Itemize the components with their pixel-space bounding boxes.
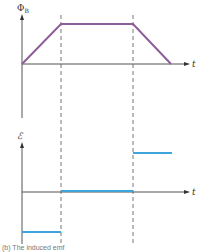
top-x-arrow-icon <box>184 62 190 66</box>
figure-caption: (b) The induced emf <box>2 244 65 251</box>
top-x-label: t <box>192 59 196 69</box>
bottom-x-arrow-icon <box>184 190 190 194</box>
bottom-graph: ℰ t <box>17 131 196 244</box>
top-y-arrow-icon <box>20 14 24 20</box>
bottom-y-label: ℰ <box>17 131 24 141</box>
bottom-y-arrow-icon <box>20 142 24 148</box>
bottom-x-label: t <box>192 187 196 197</box>
flux-emf-diagram: ΦB t ℰ t <box>0 0 204 252</box>
top-y-label: ΦB <box>17 3 29 14</box>
flux-curve <box>22 24 171 64</box>
top-graph: ΦB t <box>17 3 196 118</box>
